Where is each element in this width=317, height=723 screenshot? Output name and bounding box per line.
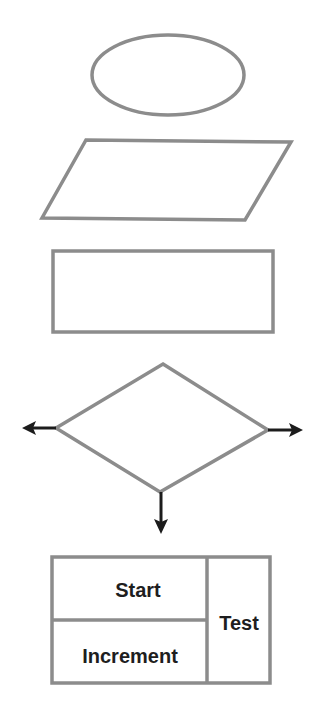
decision-diamond (56, 364, 268, 492)
loop-increment-label: Increment (82, 645, 178, 667)
flowchart-symbols-diagram: Start Increment Test (0, 0, 317, 723)
decision-right-arrow-icon (268, 423, 303, 437)
decision-left-arrow-icon (22, 421, 56, 435)
loop-box: Start Increment Test (52, 557, 270, 683)
process-rectangle (53, 251, 273, 332)
decision-down-arrow-icon (154, 492, 168, 534)
terminal-ellipse (92, 35, 244, 115)
loop-test-label: Test (219, 612, 259, 634)
loop-start-label: Start (115, 579, 161, 601)
input-output-parallelogram (42, 140, 291, 220)
